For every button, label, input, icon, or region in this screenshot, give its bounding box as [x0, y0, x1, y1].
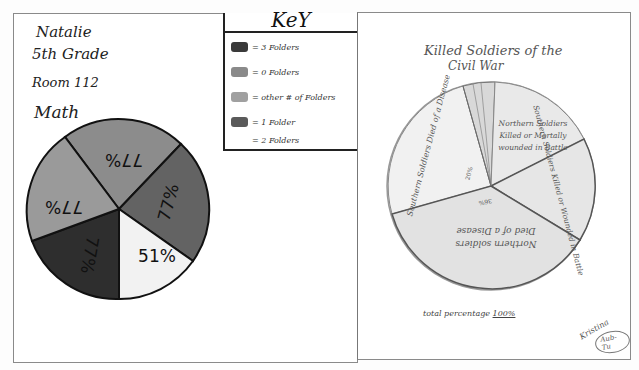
slice-label-left: 77%: [45, 197, 83, 217]
swatch-light: [231, 92, 248, 102]
slice-label-white: 51%: [138, 246, 176, 266]
key-item-other-folders: = other # of Folders: [231, 91, 335, 103]
swatch-darkmedium: [231, 117, 248, 127]
swatch-medium: [231, 67, 248, 77]
label-northern-killed: Northern Soldiers: [498, 119, 568, 128]
key-item-0-folders: = 0 Folders: [231, 66, 299, 78]
label-northern-disease: Northern soldiers: [455, 239, 537, 249]
key-item-3-folders: = 3 Folders: [231, 41, 299, 53]
key-legend: KeY = 3 Folders = 0 Folders = other # of…: [223, 13, 359, 151]
svg-text:Killed or Mortally: Killed or Mortally: [498, 131, 567, 140]
svg-text:Died of a Disease: Died of a Disease: [456, 226, 536, 236]
swatch-dark: [231, 42, 248, 52]
left-panel: Natalie 5th Grade Room 112 Math 77% 77% …: [13, 13, 358, 363]
svg-text:wounded in Battle: wounded in Battle: [498, 143, 568, 152]
right-panel: Killed Soldiers of the Civil War Souther…: [357, 12, 631, 360]
total-percentage: total percentage 100%: [423, 309, 515, 318]
key-item-1-folder: = 1 Folder: [231, 116, 295, 128]
swatch-white: [231, 135, 248, 145]
key-title: KeY: [225, 9, 357, 33]
slice-label-top: 77%: [105, 150, 143, 170]
key-item-2-folders: = 2 Folders: [231, 134, 299, 146]
